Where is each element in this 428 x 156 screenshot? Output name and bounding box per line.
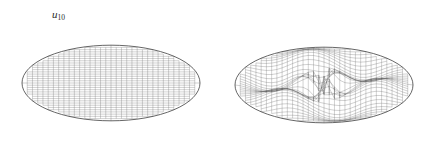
mesh-surface-u31: [214, 0, 428, 156]
mesh-surface-u10: [0, 0, 214, 156]
mode-label-u10: u10: [52, 9, 65, 22]
mode-shape-figure: u10 u31: [0, 0, 428, 156]
panel-u10: u10: [0, 0, 214, 156]
panel-u31: u31: [214, 0, 428, 156]
mode-label-subscript: 10: [58, 13, 66, 22]
